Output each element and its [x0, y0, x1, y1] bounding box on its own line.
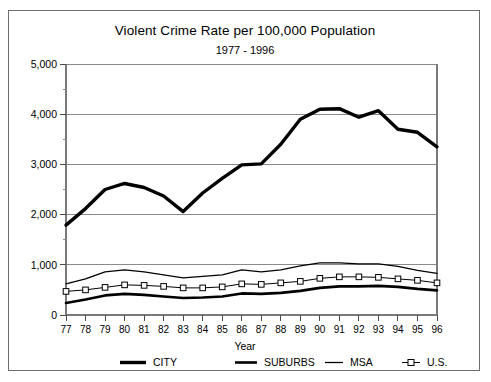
- series-marker-us: [63, 289, 69, 295]
- chart-legend: CITYSUBURBSMSAU.S.: [120, 356, 447, 368]
- x-tick-label: 94: [392, 324, 404, 335]
- y-tick-label: 4,000: [31, 108, 57, 120]
- legend-item-city: CITY: [120, 356, 177, 368]
- x-tick-label: 90: [314, 324, 326, 335]
- series-marker-us: [278, 280, 284, 286]
- series-marker-us: [219, 284, 225, 290]
- x-tick-label: 78: [80, 324, 92, 335]
- x-axis-title: Year: [234, 340, 256, 352]
- x-tick-label: 79: [99, 324, 111, 335]
- series-marker-us: [395, 276, 401, 282]
- series-marker-us: [258, 282, 264, 288]
- x-tick-label: 92: [353, 324, 365, 335]
- line-chart-plot: 01,0002,0003,0004,0005,000 7778798081828…: [9, 11, 481, 372]
- x-tick-label: 82: [158, 324, 170, 335]
- legend-item-msa: MSA: [325, 356, 373, 368]
- legend-item-us: U.S.: [402, 356, 447, 368]
- legend-label: SUBURBS: [264, 356, 315, 368]
- legend-label: MSA: [350, 356, 373, 368]
- y-tick-label: 3,000: [31, 158, 57, 170]
- x-tick-label: 77: [60, 324, 72, 335]
- series-marker-us: [415, 278, 421, 284]
- x-tick-label: 96: [431, 324, 443, 335]
- y-tick-label: 2,000: [31, 208, 57, 220]
- series-marker-us: [200, 285, 206, 291]
- x-tick-label: 84: [197, 324, 209, 335]
- plot-area-wrapper: 01,0002,0003,0004,0005,000 7778798081828…: [9, 11, 481, 372]
- series-marker-us: [161, 284, 167, 290]
- x-tick-label: 86: [236, 324, 248, 335]
- x-tick-label: 88: [275, 324, 287, 335]
- legend-label: U.S.: [427, 356, 447, 368]
- series-marker-us: [122, 282, 128, 288]
- x-tick-label: 93: [373, 324, 385, 335]
- series-line-city: [66, 109, 437, 225]
- x-tick-label: 89: [295, 324, 307, 335]
- y-tick-label: 1,000: [31, 259, 57, 271]
- y-tick-label: 0: [51, 309, 57, 321]
- series-marker-us: [434, 280, 440, 286]
- chart-figure: Violent Crime Rate per 100,000 Populatio…: [0, 0, 491, 382]
- chart-frame: Violent Crime Rate per 100,000 Populatio…: [8, 10, 480, 371]
- series-marker-us: [317, 276, 323, 282]
- series-marker-us: [141, 283, 147, 289]
- series-marker-us: [102, 285, 108, 291]
- x-tick-label: 80: [119, 324, 131, 335]
- series-marker-us: [83, 287, 89, 293]
- x-tick-label: 91: [334, 324, 346, 335]
- legend-label: CITY: [153, 356, 177, 368]
- y-tick-label: 5,000: [31, 58, 57, 70]
- series-marker-us: [239, 281, 245, 287]
- series-marker-us: [337, 274, 343, 280]
- x-axis: 7778798081828384858687888990919293949596: [60, 315, 443, 335]
- legend-item-suburbs: SUBURBS: [235, 356, 315, 368]
- series-marker-us: [376, 275, 382, 281]
- data-series: [63, 109, 440, 303]
- y-axis: 01,0002,0003,0004,0005,000: [31, 58, 66, 321]
- series-line-suburbs: [66, 286, 437, 303]
- series-marker-us: [298, 279, 304, 285]
- series-marker-us: [356, 274, 362, 280]
- series-marker-us: [180, 285, 186, 291]
- legend-marker-square: [408, 360, 414, 366]
- x-tick-label: 95: [412, 324, 424, 335]
- x-tick-label: 87: [256, 324, 268, 335]
- series-line-msa: [66, 263, 437, 284]
- x-tick-label: 81: [139, 324, 151, 335]
- x-tick-label: 83: [178, 324, 190, 335]
- x-tick-label: 85: [217, 324, 229, 335]
